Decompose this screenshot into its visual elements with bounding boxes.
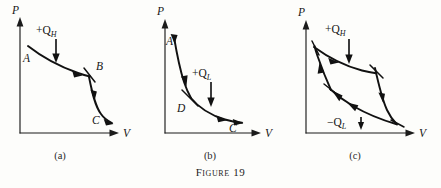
panel-b-isotherm-curve: [190, 97, 242, 123]
panel-a-isotherm-curve: [28, 46, 90, 77]
panel-a-x-axis: [20, 130, 119, 137]
diagram-panel-b: P V A D C +QL: [141, 0, 287, 150]
panel-b-sublabel: (b): [180, 150, 240, 161]
panel-c-sublabel: (c): [325, 150, 385, 161]
panel-c-x-axis: [306, 130, 415, 137]
panel-c-x-axis-label: V: [419, 127, 428, 139]
panel-a-heat-arrow: [52, 39, 59, 63]
panel-a-sublabel: (a): [30, 150, 90, 161]
panel-b-x-axis: [165, 130, 261, 137]
figure-caption: Figure 19: [0, 166, 441, 178]
panel-c-heat-out-arrow: [358, 117, 364, 130]
panel-a-y-axis-label: P: [11, 4, 19, 16]
panel-b-y-axis-label: P: [156, 5, 164, 17]
panel-c-y-axis: [303, 20, 310, 133]
panel-c-heat-in-label: +QH: [325, 23, 347, 38]
panel-a-point-label-b: B: [96, 60, 103, 72]
diagram-panel-c: P V +QH: [287, 0, 433, 150]
panel-a-y-axis: [17, 17, 24, 133]
panel-c-heat-out-label: −QL: [327, 116, 347, 131]
panel-b-point-label-d: D: [176, 102, 186, 114]
panel-b-point-label-a: A: [165, 35, 174, 47]
panel-c-y-axis-label: P: [297, 6, 305, 18]
panel-a-point-label-c: C: [92, 114, 100, 126]
panel-b-x-axis-label: V: [265, 127, 274, 139]
panel-b-adiabat-curve: [174, 37, 191, 98]
panel-c-corner-tick-bottom-left: [324, 84, 338, 95]
panel-c-heat-in-arrow: [345, 39, 352, 64]
figure-caption-number: 19: [233, 166, 245, 178]
panel-c-lower-isotherm-arrowhead: [347, 102, 358, 111]
panel-a-heat-label: +QH: [36, 24, 58, 39]
figure-19-container: P V A B C +QH: [0, 0, 441, 188]
figure-caption-word: Figure: [196, 166, 230, 178]
panel-b-heat-arrow: [207, 82, 214, 107]
panel-a-x-axis-label: V: [123, 127, 132, 139]
panel-a-point-label-a: A: [22, 52, 31, 64]
panel-b-point-label-c: C: [229, 122, 237, 134]
panel-c-right-adiabat: [375, 68, 397, 125]
diagram-panel-a: P V A B C +QH: [0, 0, 146, 150]
panel-b-heat-label: +QL: [192, 67, 212, 82]
